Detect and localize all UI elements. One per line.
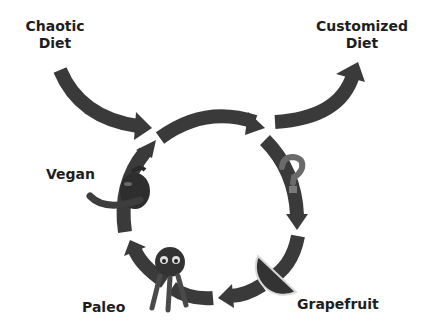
entry-arrow: [60, 70, 152, 140]
exit-arrow: [275, 62, 365, 122]
chaotic-diet-label: Chaotic Diet: [20, 18, 90, 52]
paleo-label: Paleo: [82, 299, 142, 316]
customized-diet-line1: Customized: [312, 18, 412, 35]
chaotic-diet-line1: Chaotic: [20, 18, 90, 35]
grapefruit-label: Grapefruit: [297, 296, 397, 313]
furry-monster-icon: [152, 247, 186, 310]
customized-diet-line2: Diet: [312, 35, 412, 52]
vegan-label: Vegan: [46, 166, 106, 183]
chaotic-diet-line2: Diet: [20, 35, 90, 52]
customized-diet-label: Customized Diet: [312, 18, 412, 52]
